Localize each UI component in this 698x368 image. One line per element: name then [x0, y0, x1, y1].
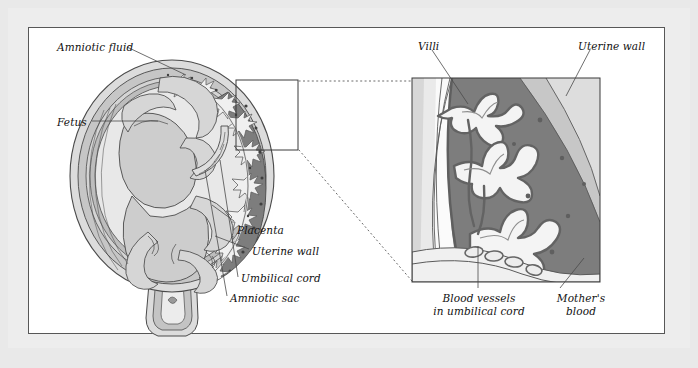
- label-blood-vessels: Blood vessels in umbilical cord: [430, 292, 528, 317]
- label-villi: Villi: [418, 40, 439, 53]
- label-blood-vessels-line2: in umbilical cord: [430, 305, 528, 318]
- label-umbilical-cord: Umbilical cord: [241, 272, 321, 285]
- label-mothers-blood-line1: Mother's: [548, 292, 614, 305]
- label-fetus: Fetus: [57, 116, 87, 129]
- label-mothers-blood-line2: blood: [548, 305, 614, 318]
- label-blood-vessels-line1: Blood vessels: [430, 292, 528, 305]
- label-uterine-wall-inset: Uterine wall: [578, 40, 645, 53]
- label-placenta: Placenta: [237, 224, 284, 237]
- label-amniotic-sac: Amniotic sac: [230, 292, 300, 305]
- label-uterine-wall: Uterine wall: [252, 245, 319, 258]
- figure-page: Amniotic fluid Fetus Placenta Uterine wa…: [0, 0, 698, 368]
- figure-plate: [28, 27, 665, 334]
- label-mothers-blood: Mother's blood: [548, 292, 614, 317]
- label-amniotic-fluid: Amniotic fluid: [57, 41, 133, 54]
